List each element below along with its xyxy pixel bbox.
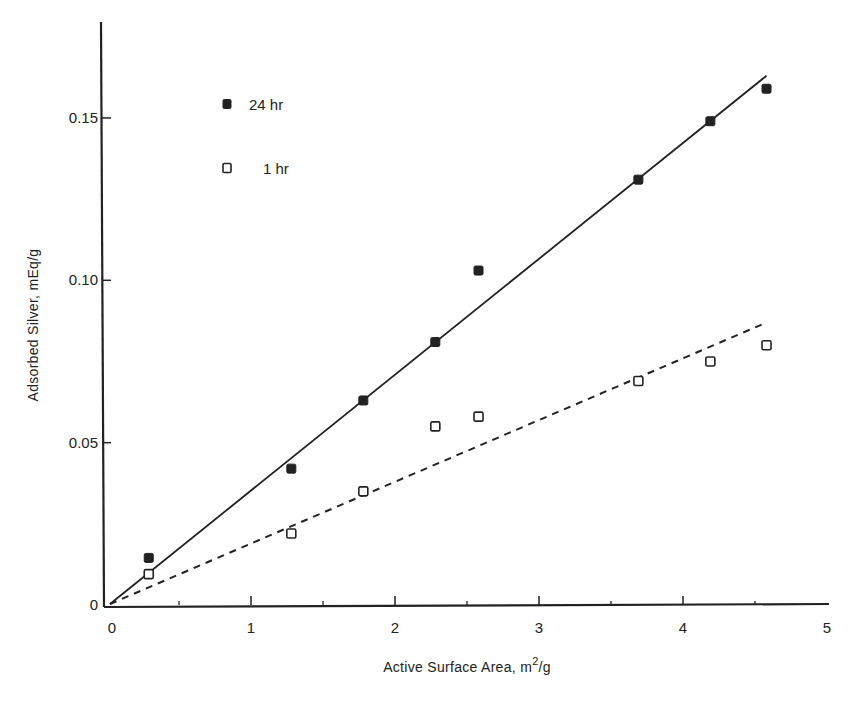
y-tick-label: 0.10 — [69, 271, 98, 288]
open-square-point — [287, 529, 296, 538]
x-tick-label: 5 — [823, 619, 831, 636]
open-square-point — [634, 376, 643, 385]
open-square-point — [762, 341, 771, 350]
x-tick-label: 2 — [391, 619, 399, 636]
x-axis-label: Active Surface Area, m2/g — [383, 655, 551, 675]
open-square-point — [474, 412, 483, 421]
scatter-chart: 01234500.050.100.15 24 hr1 hr Active Sur… — [0, 0, 852, 706]
filled-square-point — [762, 84, 771, 93]
legend: 24 hr1 hr — [223, 96, 289, 177]
axes: 01234500.050.100.15 — [69, 22, 831, 636]
filled-square-point — [634, 175, 643, 184]
open-square-point — [431, 422, 440, 431]
1hr-fit-line — [110, 323, 767, 604]
open-square-point — [359, 487, 368, 496]
y-axis-line — [101, 22, 104, 607]
y-tick-label: 0 — [90, 596, 98, 613]
filled-square-point — [474, 266, 483, 275]
filled-square-point — [431, 337, 440, 346]
legend-label: 24 hr — [249, 96, 283, 113]
y-tick-label: 0.15 — [69, 109, 98, 126]
data-points — [144, 84, 771, 578]
x-tick-label: 1 — [247, 619, 255, 636]
legend-open-square-icon — [223, 164, 231, 173]
y-axis-label: Adsorbed Silver, mEq/g — [25, 249, 41, 402]
legend-label: 1 hr — [263, 160, 289, 177]
filled-square-point — [287, 464, 296, 473]
x-tick-label: 4 — [679, 619, 687, 636]
filled-square-point — [706, 117, 715, 126]
open-square-point — [144, 570, 153, 579]
filled-square-point — [359, 396, 368, 405]
legend-filled-square-icon — [223, 100, 231, 109]
x-tick-label: 3 — [535, 619, 543, 636]
filled-square-point — [144, 553, 153, 562]
x-tick-label: 0 — [108, 619, 116, 636]
open-square-point — [706, 357, 715, 366]
y-tick-label: 0.05 — [69, 434, 98, 451]
